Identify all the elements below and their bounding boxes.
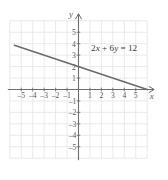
x-tick-label: 1 <box>88 91 92 100</box>
x-tick-label: –5 <box>16 91 25 100</box>
y-tick-label: 1 <box>72 74 76 83</box>
y-tick-label: 3 <box>72 51 76 60</box>
x-tick-label: 4 <box>122 91 126 100</box>
y-tick-label: 4 <box>72 40 76 49</box>
x-tick-label: 2 <box>100 91 104 100</box>
x-axis-label: x <box>149 91 154 101</box>
y-tick-label: –2 <box>68 108 77 117</box>
equation-label: 2x + 6y = 12 <box>91 43 137 53</box>
y-tick-label: 5 <box>72 28 76 37</box>
y-tick-label: 2 <box>72 63 76 72</box>
x-tick-label: –2 <box>51 91 60 100</box>
graph-figure: –5–4–3–2–11234554321–1–2–3–4–5 xy 2x + 6… <box>0 0 168 180</box>
y-tick-label: –5 <box>68 143 77 152</box>
coordinate-plane-svg: –5–4–3–2–11234554321–1–2–3–4–5 xy 2x + 6… <box>0 0 168 180</box>
equation-annotation: 2x + 6y = 12 <box>91 43 137 53</box>
x-tick-label: 3 <box>111 91 115 100</box>
axes <box>8 14 154 160</box>
y-tick-label: –1 <box>68 97 77 106</box>
x-tick-label: –3 <box>39 91 48 100</box>
y-axis-label: y <box>68 9 73 19</box>
y-tick-label: –3 <box>68 120 77 129</box>
x-tick-label: 5 <box>134 91 138 100</box>
y-tick-label: –4 <box>68 131 77 140</box>
x-tick-label: –4 <box>28 91 37 100</box>
